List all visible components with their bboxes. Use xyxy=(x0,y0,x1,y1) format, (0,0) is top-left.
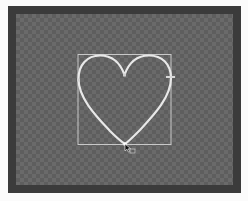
anchor-point-bottom-tip[interactable] xyxy=(124,143,127,146)
artboard-canvas[interactable] xyxy=(16,14,233,185)
anchor-point-right[interactable] xyxy=(166,76,175,78)
editor-stage xyxy=(0,0,248,201)
anchor-point-left[interactable] xyxy=(77,79,80,82)
artboard-frame xyxy=(8,6,241,193)
anchor-point-top-center[interactable] xyxy=(123,74,126,77)
